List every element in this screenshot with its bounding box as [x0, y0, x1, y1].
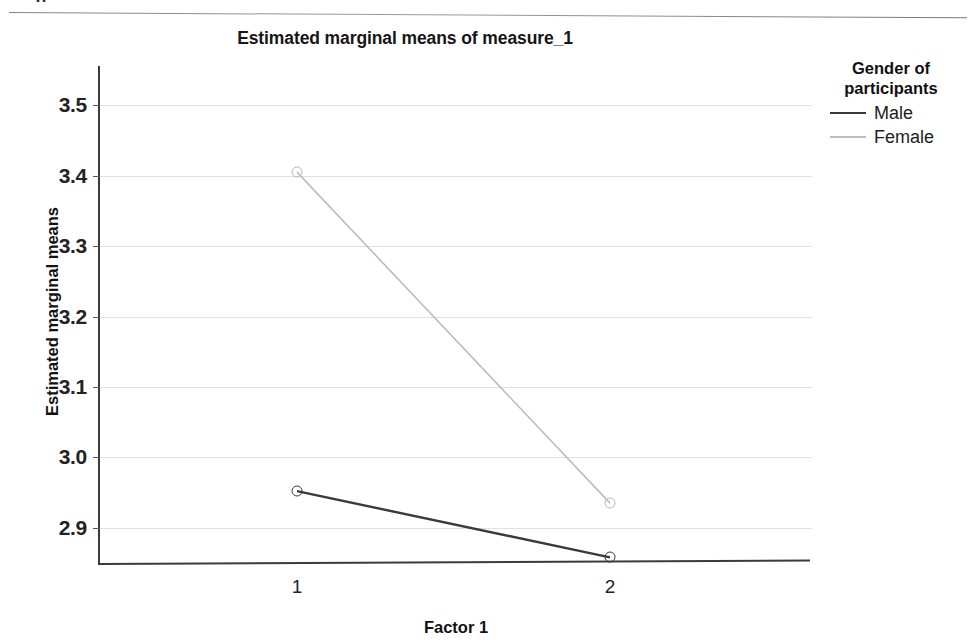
legend-label-female: Female — [874, 128, 934, 146]
y-tick-mark — [93, 105, 100, 106]
legend-swatch-female — [830, 136, 866, 138]
y-tick-mark — [93, 317, 100, 318]
legend-entry-male: Male — [812, 104, 972, 122]
x-axis-title: Factor 1 — [100, 618, 812, 637]
legend-title: Gender of participants — [818, 58, 964, 98]
legend-title-line-1: Gender of — [818, 58, 964, 78]
y-tick-label: 2.9 — [59, 516, 87, 540]
scan-cut-off-text: g — [36, 0, 47, 2]
y-tick-label: 3.3 — [59, 234, 87, 258]
data-point-male-1 — [292, 486, 303, 497]
data-point-female-1 — [292, 167, 303, 178]
chart-figure: Estimated marginal means of measure_1 2.… — [0, 18, 972, 643]
y-tick-mark — [93, 457, 100, 458]
data-point-male-2 — [605, 552, 616, 563]
y-tick-label: 3.5 — [59, 93, 87, 117]
y-tick-mark — [93, 387, 100, 388]
legend: Gender of participants MaleFemale — [812, 58, 972, 146]
series-lines — [100, 70, 812, 563]
scan-cut-off-text-right: , — [270, 0, 274, 2]
data-point-female-2 — [605, 498, 616, 509]
y-tick-label: 3.0 — [59, 445, 87, 469]
series-line-female — [297, 172, 610, 503]
legend-label-male: Male — [874, 104, 913, 122]
legend-entry-female: Female — [812, 128, 972, 146]
x-tick-label-1: 1 — [292, 576, 303, 598]
legend-title-line-2: participants — [818, 78, 964, 98]
x-tick-label-2: 2 — [605, 576, 616, 598]
y-tick-mark — [93, 176, 100, 177]
legend-entries: MaleFemale — [812, 104, 972, 146]
legend-swatch-male — [830, 112, 866, 114]
chart-title: Estimated marginal means of measure_1 — [0, 28, 810, 49]
plot-area: 2.93.03.13.23.33.43.5 12 — [100, 70, 812, 563]
y-tick-label: 3.2 — [59, 305, 87, 329]
y-axis-title: Estimated marginal means — [43, 102, 62, 522]
y-tick-mark — [93, 246, 100, 247]
series-line-male — [297, 491, 610, 557]
y-tick-label: 3.4 — [59, 164, 87, 188]
y-tick-label: 3.1 — [59, 375, 87, 399]
y-tick-mark — [93, 528, 100, 529]
